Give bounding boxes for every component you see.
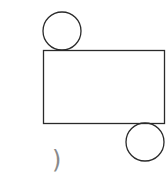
bottom-circle [126, 123, 164, 161]
lateral-rectangle [44, 51, 165, 124]
parenthesis-label: ) [52, 148, 61, 172]
cylinder-net-diagram [0, 0, 167, 182]
top-circle [43, 12, 81, 50]
